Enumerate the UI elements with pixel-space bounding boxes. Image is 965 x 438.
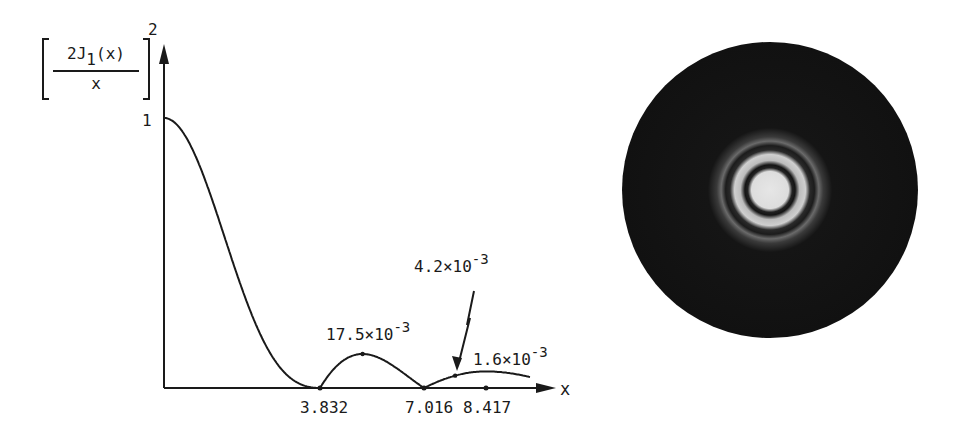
y-axis-label: 2J1(x) x [42,38,150,100]
zero-point [484,386,489,391]
x-zero-label: 7.016 [405,398,453,417]
peak-point [360,352,364,356]
y-tick-label: 1 [142,111,152,130]
y-axis-arrow-icon [159,44,169,64]
left-bracket [42,38,49,100]
axes: x 1 [142,44,570,399]
annotation-peak-3: 1.6×10-3 [473,344,548,369]
annotation-arrowhead-icon [452,356,462,371]
peak-point [453,373,457,377]
annotation-arrow [459,291,474,362]
zero-point [318,386,323,391]
right-bracket [143,38,150,100]
fraction-bar [53,70,139,72]
x-zero-label: 3.832 [300,398,348,417]
y-label-exponent: 2 [148,20,158,39]
x-axis-arrow-icon [536,383,556,393]
y-label-denominator: x [52,74,140,93]
annotation-peak-1: 17.5×10-3 [326,319,410,344]
y-label-numerator: 2J1(x) [52,44,140,69]
x-zero-label: 8.417 [463,398,511,417]
zero-point [422,386,427,391]
x-axis-label: x [560,379,570,399]
annotation-peak-2: 4.2×10-3 [414,251,489,276]
